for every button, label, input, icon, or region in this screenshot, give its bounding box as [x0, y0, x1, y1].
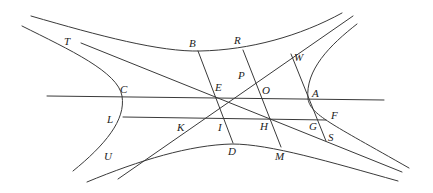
label-E: E	[214, 81, 222, 93]
label-U: U	[104, 150, 113, 162]
label-M: M	[274, 150, 285, 162]
label-A: A	[311, 87, 319, 99]
label-K: K	[176, 121, 185, 133]
label-P: P	[237, 69, 245, 81]
line-B-D	[198, 51, 233, 143]
label-S: S	[328, 131, 334, 143]
label-T: T	[64, 35, 71, 47]
label-R: R	[233, 34, 241, 46]
label-C: C	[120, 83, 128, 95]
label-W: W	[294, 51, 304, 63]
hyperbola-diagram: T B R W P C E O A L K I H G F S U D M	[0, 0, 433, 193]
asymptote-T-S	[81, 43, 402, 172]
right-branch-curve	[308, 24, 409, 168]
label-B: B	[189, 37, 196, 49]
label-G: G	[309, 120, 317, 132]
label-F: F	[330, 109, 338, 121]
lower-branch-curve	[87, 144, 398, 182]
label-H: H	[259, 120, 269, 132]
upper-branch-curve	[31, 13, 342, 51]
label-I: I	[217, 121, 223, 133]
label-L: L	[106, 113, 113, 125]
label-D: D	[227, 145, 236, 157]
label-O: O	[262, 84, 270, 96]
